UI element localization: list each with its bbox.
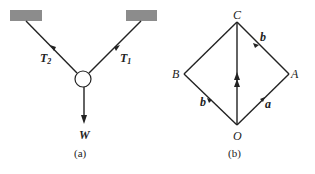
caption-a: (a) [74,147,87,160]
vector-label-ob: b [200,95,206,109]
arrow-oc-icon-2 [234,79,240,87]
left-support [10,10,42,21]
edge-bc [184,22,237,74]
label-t1: T1 [120,51,131,66]
point-a: A [290,67,299,81]
vector-label-ac: b [260,30,266,44]
point-b: B [172,67,180,81]
vector-label-oa: a [265,97,271,111]
arrow-w-icon [81,115,87,124]
mass-node [75,71,91,87]
figure-b: C B A O b a b (b) [172,8,299,160]
label-w: W [79,128,91,142]
figure-a: T2 T1 W (a) [10,10,157,160]
arrow-oc-icon-1 [234,72,240,80]
caption-b: (b) [228,147,241,160]
right-support [126,10,157,21]
label-t2: T2 [40,51,51,66]
point-c: C [233,8,242,22]
point-o: O [233,129,242,143]
